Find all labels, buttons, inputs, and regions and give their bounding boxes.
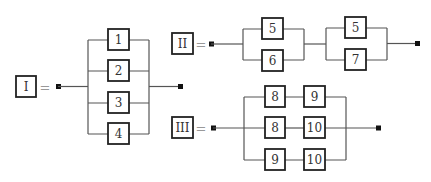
component-label: 8: [271, 121, 279, 135]
component-label: 9: [311, 90, 319, 104]
component-label: 10: [307, 121, 322, 135]
diagram-III: III = 8 9 8 10 9 10: [172, 86, 381, 170]
component-label: 1: [115, 33, 123, 47]
component-label: 7: [352, 53, 360, 67]
diagram-I-equals: =: [40, 80, 51, 95]
component-label: 5: [352, 21, 360, 35]
diagram-II-equals: =: [196, 37, 207, 52]
diagram-III-label: III: [175, 121, 189, 135]
diagram-II-label: II: [178, 37, 188, 51]
diagram-I: I = 1 2 3 4: [16, 29, 183, 144]
diagram-I-output-node: [178, 84, 183, 89]
component-label: 8: [271, 90, 279, 104]
diagram-III-output-node: [376, 126, 381, 131]
reliability-diagrams: I = 1 2 3 4 II =: [0, 0, 431, 182]
component-label: 6: [269, 54, 277, 68]
component-label: 9: [271, 153, 279, 167]
diagram-II: II = 5 6 5 7: [172, 17, 420, 71]
diagram-III-equals: =: [196, 121, 207, 136]
diagram-II-output-node: [415, 41, 420, 46]
diagram-I-label: I: [24, 80, 29, 94]
component-label: 5: [269, 22, 277, 36]
component-label: 3: [115, 96, 123, 110]
component-label: 2: [115, 64, 123, 78]
component-label: 4: [115, 127, 123, 141]
component-label: 10: [307, 153, 322, 167]
